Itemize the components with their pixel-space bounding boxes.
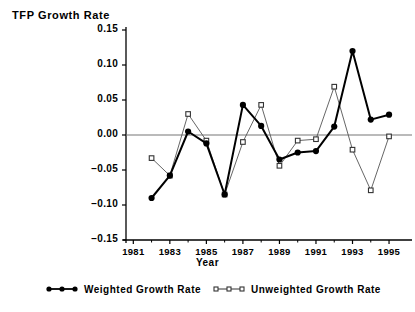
y-tick-label: 0.00: [58, 128, 118, 139]
series-layer: [148, 48, 392, 201]
y-tick-label: −0.15: [58, 233, 118, 244]
y-tick-label: −0.10: [58, 198, 118, 209]
data-point: [259, 103, 264, 108]
data-point: [331, 124, 337, 130]
legend-entry-weighted: Weighted Growth Rate: [45, 283, 201, 295]
data-point: [149, 156, 154, 161]
data-point: [148, 195, 154, 201]
y-tick-label: −0.05: [58, 163, 118, 174]
data-point: [240, 102, 246, 108]
data-point: [314, 137, 319, 142]
data-point: [241, 140, 246, 145]
data-point: [203, 140, 209, 146]
legend-label-unweighted: Unweighted Growth Rate: [251, 284, 381, 295]
y-tick-label: 0.10: [58, 58, 118, 69]
data-point: [313, 148, 319, 154]
data-point: [295, 149, 301, 155]
data-point: [368, 188, 373, 193]
data-point: [276, 156, 282, 162]
data-point: [258, 123, 264, 129]
chart-figure: TFP Growth Rate −0.15−0.10−0.050.000.050…: [0, 0, 415, 312]
data-point: [349, 48, 355, 54]
series-unweighted: [149, 84, 391, 196]
data-point: [277, 164, 282, 169]
series-line: [152, 51, 389, 198]
legend-entry-unweighted: Unweighted Growth Rate: [212, 283, 381, 295]
y-tick-label: 0.15: [58, 23, 118, 34]
legend-marker-filled-circle: [45, 283, 79, 295]
series-line: [152, 87, 389, 195]
chart-legend: Weighted Growth Rate Unweighted Growth R…: [0, 283, 415, 303]
data-point: [186, 112, 191, 117]
data-point: [386, 112, 392, 118]
data-point: [387, 134, 392, 139]
data-point: [167, 173, 173, 179]
data-point: [368, 117, 374, 123]
legend-marker-open-square: [212, 283, 246, 295]
x-axis-title: Year: [0, 257, 415, 268]
data-point: [295, 138, 300, 143]
x-tick-label: 1995: [366, 246, 412, 257]
legend-label-weighted: Weighted Growth Rate: [84, 284, 201, 295]
data-point: [222, 191, 228, 197]
y-tick-label: 0.05: [58, 93, 118, 104]
data-point: [332, 84, 337, 89]
data-point: [350, 147, 355, 152]
data-point: [185, 128, 191, 134]
